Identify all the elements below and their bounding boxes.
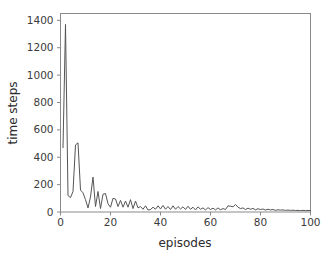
x-tick-label: 20 — [104, 216, 117, 228]
x-tick-label: 40 — [154, 216, 167, 228]
chart-figure: 0200400600800100012001400 020406080100 e… — [0, 0, 331, 255]
y-axis-title: time steps — [6, 81, 20, 144]
y-tick-label: 1400 — [27, 14, 54, 26]
y-tick-label: 800 — [33, 96, 53, 108]
x-axis-title: episodes — [158, 236, 211, 250]
x-tick-label: 0 — [57, 216, 64, 228]
y-tick-label: 200 — [33, 178, 53, 190]
x-tick-label: 60 — [204, 216, 217, 228]
y-tick-label: 1000 — [27, 69, 54, 81]
y-tick-label: 400 — [33, 151, 53, 163]
y-tick-label: 0 — [47, 206, 54, 218]
x-tick-label: 100 — [300, 216, 320, 228]
line-chart-canvas: 0200400600800100012001400 020406080100 e… — [0, 0, 331, 255]
y-tick-label: 600 — [33, 123, 53, 135]
y-tick-label: 1200 — [27, 41, 54, 53]
x-tick-label: 80 — [254, 216, 267, 228]
